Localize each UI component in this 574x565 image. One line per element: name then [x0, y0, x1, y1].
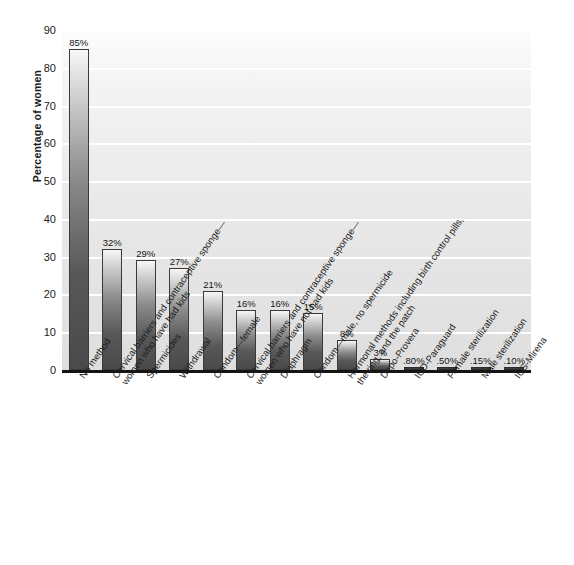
- y-tick-label: 50: [44, 175, 56, 187]
- bar: [69, 49, 89, 370]
- bar-chart: Percentage of women 9080706050403020100 …: [0, 0, 574, 565]
- y-tick-label: 0: [50, 364, 56, 376]
- y-tick-label: 90: [44, 24, 56, 36]
- bar-value-label: 32%: [89, 237, 135, 248]
- y-tick-label: 70: [44, 100, 56, 112]
- x-axis-tick-labels: No methodCervical barriers and contracep…: [62, 374, 531, 554]
- y-tick-label: 40: [44, 213, 56, 225]
- y-tick-label: 10: [44, 326, 56, 338]
- y-tick-label: 30: [44, 251, 56, 263]
- bar-value-label: 85%: [56, 37, 102, 48]
- y-tick-label: 80: [44, 62, 56, 74]
- y-axis-tick-labels: 9080706050403020100: [28, 30, 60, 370]
- y-tick-label: 60: [44, 137, 56, 149]
- y-tick-label: 20: [44, 288, 56, 300]
- bar: [203, 291, 223, 370]
